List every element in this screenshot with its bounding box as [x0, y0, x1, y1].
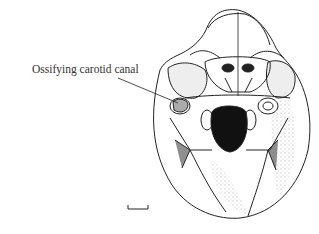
skull-outline: [154, 10, 310, 219]
skull-illustration: [0, 0, 319, 234]
scale-bar: [128, 205, 148, 209]
leader-line: [118, 78, 178, 103]
